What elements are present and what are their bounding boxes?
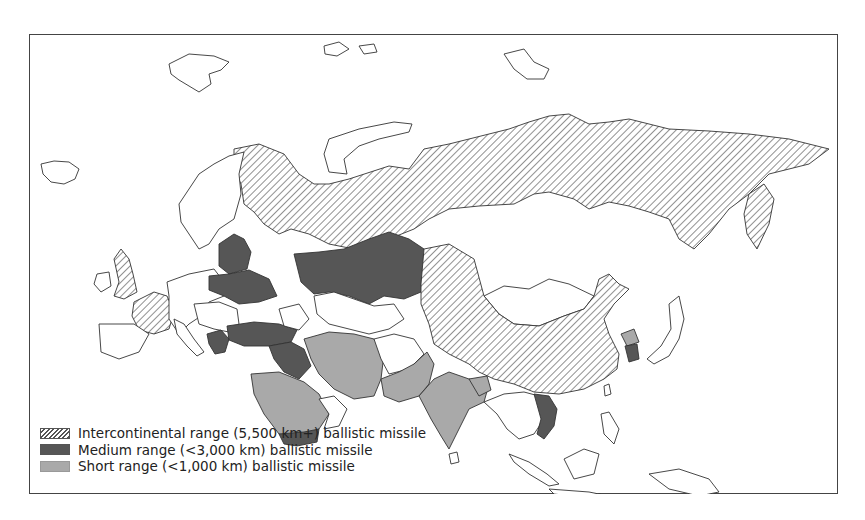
legend-label: Intercontinental range (5,500 km+) balli… (78, 425, 426, 442)
ukraine (209, 270, 277, 304)
legend-item-short: Short range (<1,000 km) ballistic missil… (40, 458, 426, 475)
novaya-zemlya (324, 122, 412, 174)
belarus (219, 234, 251, 274)
russia (234, 114, 829, 249)
svalbard (169, 54, 229, 92)
south-korea (625, 344, 639, 362)
dark-swatch-icon (40, 444, 70, 455)
north-korea (621, 329, 639, 346)
severnaya-zemlya (504, 49, 549, 79)
legend-item-intercontinental: Intercontinental range (5,500 km+) balli… (40, 425, 426, 442)
java (549, 489, 609, 494)
united-kingdom (114, 249, 137, 299)
borneo (564, 449, 599, 479)
greece (207, 330, 229, 354)
philippines (601, 412, 619, 444)
new-guinea (649, 469, 719, 494)
map-legend: Intercontinental range (5,500 km+) balli… (40, 425, 426, 475)
legend-label: Medium range (<3,000 km) ballistic missi… (78, 442, 373, 459)
iberia (99, 324, 149, 359)
light-swatch-icon (40, 461, 70, 472)
sri-lanka (449, 452, 459, 464)
ireland (94, 272, 111, 292)
hatched-swatch-icon (40, 428, 70, 439)
iceland (41, 161, 79, 184)
taiwan (604, 384, 611, 396)
sumatra (509, 454, 559, 486)
iran (304, 332, 384, 399)
legend-label: Short range (<1,000 km) ballistic missil… (78, 458, 355, 475)
legend-item-medium: Medium range (<3,000 km) ballistic missi… (40, 442, 426, 459)
kazakhstan (294, 232, 429, 304)
franz-josef-land (324, 42, 377, 56)
japan (647, 296, 684, 364)
